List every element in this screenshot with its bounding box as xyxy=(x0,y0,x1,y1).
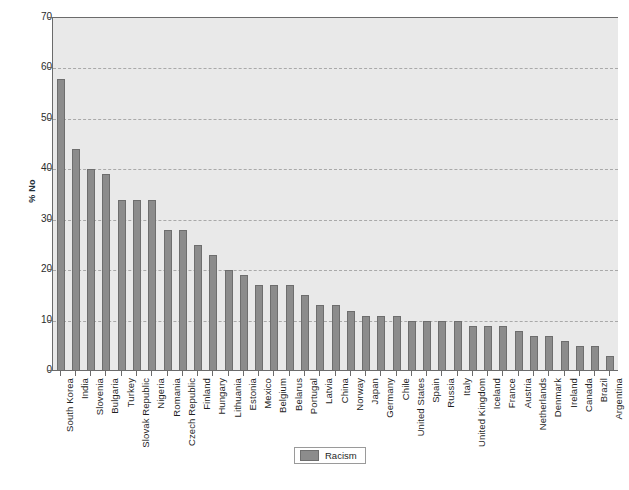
x-tick-mark xyxy=(151,371,152,376)
y-tick-mark xyxy=(47,118,52,119)
legend-swatch-racism xyxy=(300,450,319,461)
x-tick-mark xyxy=(579,371,580,376)
x-tick-mark xyxy=(75,371,76,376)
bar xyxy=(469,326,477,371)
x-tick-mark xyxy=(289,371,290,376)
x-tick-label: South Korea xyxy=(64,378,75,432)
y-tick-label: 70 xyxy=(8,11,52,22)
x-tick-mark xyxy=(258,371,259,376)
x-tick-mark xyxy=(564,371,565,376)
x-tick-mark xyxy=(518,371,519,376)
y-tick-label: 0 xyxy=(8,364,52,375)
bar xyxy=(484,326,492,371)
bar xyxy=(72,149,80,371)
x-tick-mark xyxy=(212,371,213,376)
bar xyxy=(454,321,462,371)
x-tick-mark xyxy=(304,371,305,376)
x-tick-mark xyxy=(487,371,488,376)
x-tick-label: Portugal xyxy=(308,378,319,414)
bar xyxy=(332,305,340,371)
x-tick-mark xyxy=(335,371,336,376)
x-tick-label: India xyxy=(79,378,90,399)
x-tick-mark xyxy=(60,371,61,376)
bar xyxy=(194,245,202,371)
x-tick-mark xyxy=(90,371,91,376)
y-tick-label: 50 xyxy=(8,112,52,123)
bar xyxy=(316,305,324,371)
bar xyxy=(255,285,263,371)
bar xyxy=(148,200,156,371)
x-tick-mark xyxy=(609,371,610,376)
x-tick-mark xyxy=(594,371,595,376)
x-tick-mark xyxy=(396,371,397,376)
y-tick-label: 60 xyxy=(8,61,52,72)
x-tick-mark xyxy=(243,371,244,376)
bar xyxy=(591,346,599,371)
y-tick-label: 20 xyxy=(8,263,52,274)
x-tick-mark xyxy=(273,371,274,376)
x-tick-label: Denmark xyxy=(552,378,563,417)
x-tick-label: Iceland xyxy=(491,378,502,409)
x-tick-label: Chile xyxy=(400,378,411,400)
x-tick-label: Belgium xyxy=(277,378,288,413)
x-tick-label: France xyxy=(506,378,517,408)
bar xyxy=(515,331,523,371)
y-tick-mark xyxy=(47,219,52,220)
y-tick-mark xyxy=(47,17,52,18)
bar xyxy=(118,200,126,371)
x-tick-mark xyxy=(136,371,137,376)
x-tick-mark xyxy=(457,371,458,376)
x-tick-label: Ireland xyxy=(568,378,579,408)
bar xyxy=(423,321,431,371)
bar-chart: % No 010203040506070 South KoreaIndiaSlo… xyxy=(0,0,629,490)
bars-layer xyxy=(53,18,618,371)
y-tick-mark xyxy=(47,370,52,371)
x-tick-label: Slovenia xyxy=(94,378,105,415)
x-tick-mark xyxy=(502,371,503,376)
x-tick-label: Germany xyxy=(384,378,395,418)
bar xyxy=(347,311,355,372)
bar xyxy=(561,341,569,371)
x-tick-mark xyxy=(441,371,442,376)
bar xyxy=(301,295,309,371)
bar xyxy=(499,326,507,371)
x-tick-label: Brazil xyxy=(598,378,609,402)
x-tick-label: Russia xyxy=(445,378,456,408)
y-tick-mark xyxy=(47,67,52,68)
x-tick-label: Belarus xyxy=(293,378,304,411)
x-tick-label: Canada xyxy=(583,378,594,412)
x-tick-label: Mexico xyxy=(262,378,273,409)
bar xyxy=(286,285,294,371)
x-tick-label: Italy xyxy=(461,378,472,396)
x-tick-mark xyxy=(426,371,427,376)
y-tick-label: 10 xyxy=(8,314,52,325)
x-tick-mark xyxy=(533,371,534,376)
bar xyxy=(57,79,65,371)
x-tick-mark xyxy=(228,371,229,376)
bar xyxy=(530,336,538,371)
x-tick-label: United States xyxy=(415,378,426,436)
x-tick-label: Latvia xyxy=(323,378,334,404)
x-tick-mark xyxy=(380,371,381,376)
legend-label-racism: Racism xyxy=(325,450,357,461)
x-tick-label: Finland xyxy=(201,378,212,410)
chart-legend: Racism xyxy=(294,447,366,464)
y-tick-mark xyxy=(47,168,52,169)
x-tick-label: Bulgaria xyxy=(109,378,120,414)
bar xyxy=(606,356,614,371)
bar xyxy=(209,255,217,371)
x-tick-label: Czech Republic xyxy=(186,378,197,446)
x-tick-mark xyxy=(411,371,412,376)
x-tick-label: Nigeria xyxy=(155,378,166,409)
x-tick-label: Turkey xyxy=(125,378,136,407)
x-tick-mark xyxy=(197,371,198,376)
bar xyxy=(408,321,416,371)
bar xyxy=(225,270,233,371)
y-tick-label: 30 xyxy=(8,213,52,224)
x-tick-label: Romania xyxy=(171,378,182,417)
y-tick-label: 40 xyxy=(8,162,52,173)
x-tick-label: Spain xyxy=(430,378,441,403)
plot-area xyxy=(52,17,618,371)
x-tick-mark xyxy=(182,371,183,376)
x-tick-label: United Kingdom xyxy=(476,378,487,447)
